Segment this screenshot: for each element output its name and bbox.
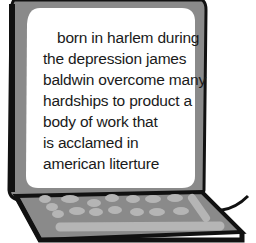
text-line: the depression james [43, 48, 193, 69]
text-line: body of work that [43, 111, 193, 132]
text-line: born in harlem during [43, 27, 193, 48]
text-line: baldwin overcome many [43, 69, 193, 90]
text-line: american literture [43, 153, 193, 174]
text-line: is acclamed in [43, 132, 193, 153]
screen-text: born in harlem during the depression jam… [43, 27, 193, 174]
text-line: hardships to product a [43, 90, 193, 111]
